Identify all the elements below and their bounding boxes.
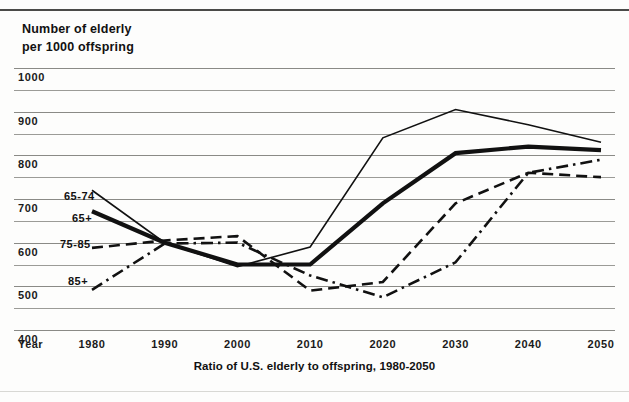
y-tick-500: 500 [18,289,38,301]
chart-figure: Number of elderly per 1000 offspring 100… [0,0,629,402]
y-tick-900: 900 [18,115,38,127]
x-tick-2010: 2010 [297,338,324,350]
plot-area [14,68,615,330]
x-tick-2000: 2000 [224,338,251,350]
y-axis-title-line2: per 1000 offspring [22,40,134,54]
x-tick-2030: 2030 [442,338,469,350]
figure-bottom-rule [0,391,629,392]
y-tick-1000: 1000 [18,71,45,83]
x-tick-1990: 1990 [151,338,178,350]
y-tick-700: 700 [18,202,38,214]
series-label-75-85: 75-85 [60,238,91,250]
series-label-85+: 85+ [68,275,88,287]
series-line-85+ [92,160,601,298]
y-axis-title-line1: Number of elderly [22,22,132,36]
x-tick-2040: 2040 [515,338,542,350]
gridline-400 [14,330,615,331]
series-label-65-74: 65-74 [64,190,95,202]
x-tick-2050: 2050 [588,338,615,350]
x-tick-1980: 1980 [79,338,106,350]
x-axis-title: Year [18,338,43,350]
series-line-65+ [92,147,601,265]
y-tick-600: 600 [18,246,38,258]
chart-caption: Ratio of U.S. elderly to offspring, 1980… [0,360,629,372]
x-tick-2020: 2020 [369,338,396,350]
series-label-65+: 65+ [72,212,92,224]
figure-top-rule [0,9,629,11]
y-tick-800: 800 [18,158,38,170]
series-lines [14,68,615,330]
